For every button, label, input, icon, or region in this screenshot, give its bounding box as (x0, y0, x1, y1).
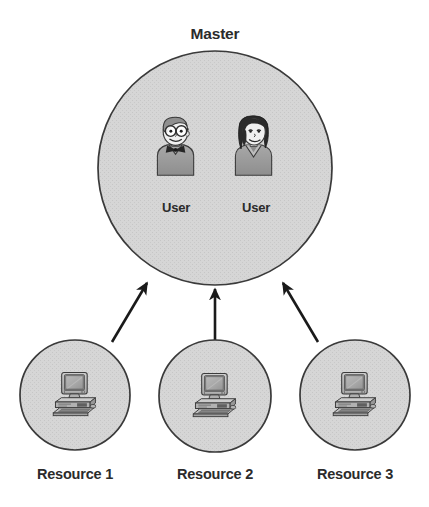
trust-arrows-group (112, 283, 318, 342)
trust-arrow-resource-3-to-master (283, 283, 318, 342)
master-circle-shape (98, 51, 332, 285)
diagram-canvas: Master User User (0, 0, 429, 507)
resource-node-2: Resource 2 (159, 340, 271, 482)
resource-node-3: Resource 3 (300, 340, 410, 482)
resource-node-1: Resource 1 (20, 340, 130, 482)
resource-2-label: Resource 2 (177, 466, 253, 482)
trust-arrow-resource-1-to-master (112, 283, 147, 342)
master-domain-circle (98, 51, 332, 285)
master-title: Master (191, 25, 240, 42)
user-female-icon (235, 116, 271, 175)
master-resource-domain-diagram: Master User User (0, 0, 429, 507)
master-user-2-label: User (242, 200, 270, 215)
master-user-1-label: User (162, 200, 190, 215)
resource-1-label: Resource 1 (37, 466, 113, 482)
master-user-1: User (157, 117, 193, 215)
resource-3-label: Resource 3 (317, 466, 393, 482)
